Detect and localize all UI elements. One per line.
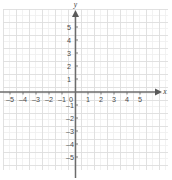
- y-tick-label-4: 4: [67, 36, 71, 45]
- y-tick-label-neg1: –1: [66, 101, 74, 110]
- x-tick-label-neg2: –2: [45, 95, 53, 104]
- y-tick-label-neg4: –4: [66, 140, 74, 149]
- y-tick-label-neg2: –2: [66, 114, 74, 123]
- x-tick-label-neg1: –1: [58, 95, 66, 104]
- x-tick-label-2: 2: [99, 95, 103, 104]
- coordinate-grid-svg: –5 –4 –3 –2 –1 0 1 2 3 4 5 5 4 3 2 1 –1 …: [0, 0, 172, 180]
- x-tick-label-neg3: –3: [32, 95, 40, 104]
- x-tick-label-3: 3: [112, 95, 116, 104]
- y-axis-name: y: [73, 0, 78, 9]
- y-tick-label-1: 1: [67, 75, 71, 84]
- x-tick-label-neg5: –5: [6, 95, 14, 104]
- y-tick-label-neg5: –5: [66, 153, 74, 162]
- y-tick-label-2: 2: [67, 62, 71, 71]
- y-tick-label-3: 3: [67, 49, 71, 58]
- x-tick-label-1: 1: [86, 95, 90, 104]
- y-axis-arrow: [72, 10, 79, 17]
- x-axis-tick-labels: –5 –4 –3 –2 –1 0 1 2 3 4 5: [6, 95, 142, 104]
- y-tick-label-5: 5: [67, 23, 71, 32]
- x-tick-label-neg4: –4: [19, 95, 27, 104]
- x-tick-label-4: 4: [125, 95, 129, 104]
- x-axis-arrow: [155, 89, 162, 96]
- coordinate-plane: –5 –4 –3 –2 –1 0 1 2 3 4 5 5 4 3 2 1 –1 …: [0, 0, 172, 180]
- minor-gridlines: [3, 9, 168, 170]
- x-axis-name: x: [162, 87, 167, 96]
- y-tick-label-neg3: –3: [66, 127, 74, 136]
- x-tick-label-5: 5: [138, 95, 142, 104]
